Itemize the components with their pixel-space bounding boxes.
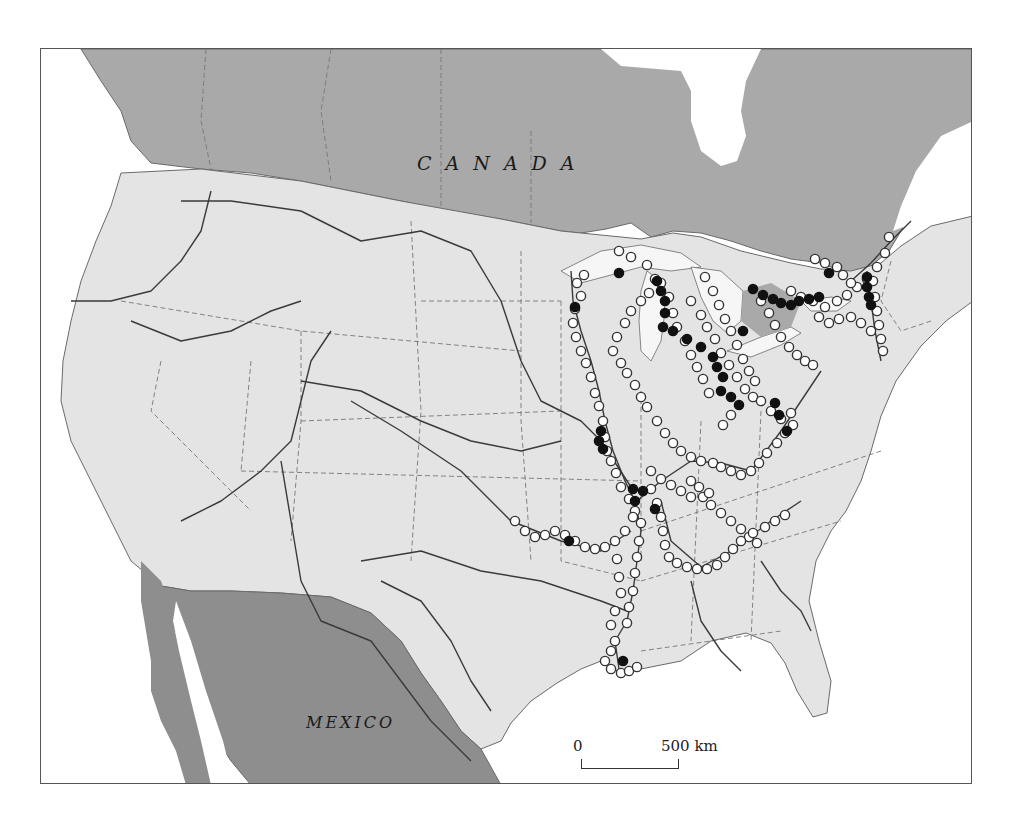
site-point [880, 248, 889, 257]
site-point [736, 470, 745, 479]
site-point [744, 366, 753, 375]
site-point [590, 544, 599, 553]
site-point [732, 372, 741, 381]
site-point [628, 586, 637, 595]
site-point [616, 588, 625, 597]
site-point [658, 526, 667, 535]
site-point [720, 314, 729, 323]
site-point [866, 326, 875, 335]
site-point [834, 314, 843, 323]
site-point [682, 334, 691, 343]
site-point [686, 452, 695, 461]
site-point [620, 318, 629, 327]
site-point [646, 466, 655, 475]
site-point [752, 538, 761, 547]
scale-start-label: 0 [573, 737, 583, 755]
site-point [884, 232, 893, 241]
site-point [770, 398, 779, 407]
scale-bar: 0 500 km [571, 737, 721, 781]
site-point [580, 542, 589, 551]
site-point [510, 516, 519, 525]
site-point [770, 516, 779, 525]
canada-label: CANADA [417, 152, 589, 174]
site-point [611, 468, 620, 477]
site-point [686, 350, 695, 359]
site-point [718, 372, 727, 381]
site-point [636, 296, 645, 305]
site-point [634, 536, 643, 545]
site-point [610, 536, 619, 545]
site-point [668, 438, 677, 447]
site-point [726, 516, 735, 525]
site-point [540, 530, 549, 539]
site-point [610, 636, 619, 645]
site-point [824, 268, 833, 277]
site-point [656, 474, 665, 483]
site-point [872, 262, 881, 271]
site-point [624, 602, 633, 611]
site-point [656, 512, 665, 521]
site-point [606, 620, 615, 629]
site-point [520, 526, 529, 535]
site-point [706, 500, 715, 509]
site-point [642, 260, 651, 269]
site-point [740, 384, 749, 393]
site-point [664, 552, 673, 561]
site-point [598, 444, 607, 453]
site-point [630, 380, 639, 389]
site-point [668, 326, 677, 335]
site-point [716, 462, 725, 471]
site-point [732, 340, 741, 349]
site-point [770, 320, 779, 329]
site-point [660, 308, 669, 317]
site-point [782, 426, 791, 435]
site-point [784, 342, 793, 351]
mexico-label: MEXICO [306, 713, 395, 732]
site-point [718, 420, 727, 429]
site-point [748, 528, 757, 537]
site-point [696, 310, 705, 319]
site-point [606, 646, 615, 655]
site-point [530, 532, 539, 541]
site-point [616, 358, 625, 367]
site-point [610, 606, 619, 615]
site-point [586, 372, 595, 381]
site-point [698, 374, 707, 383]
site-point [676, 446, 685, 455]
site-point [564, 536, 573, 545]
site-point [748, 284, 757, 293]
site-point [832, 262, 841, 271]
site-point [764, 308, 773, 317]
site-point [846, 278, 855, 287]
site-point [660, 428, 669, 437]
site-point [682, 562, 691, 571]
site-point [738, 326, 747, 335]
site-point [714, 300, 723, 309]
site-point [618, 656, 627, 665]
site-point [760, 522, 769, 531]
site-point [702, 322, 711, 331]
site-point [576, 346, 585, 355]
site-point [596, 426, 605, 435]
site-point [758, 290, 767, 299]
site-point [570, 302, 579, 311]
site-point [614, 268, 623, 277]
site-point [726, 410, 735, 419]
site-point [762, 448, 771, 457]
site-point [692, 564, 701, 573]
site-point [726, 466, 735, 475]
site-point [786, 286, 795, 295]
site-point [608, 346, 617, 355]
site-point [606, 664, 615, 673]
site-point [666, 480, 675, 489]
site-point [571, 332, 580, 341]
site-point [650, 504, 659, 513]
site-point [658, 322, 667, 331]
site-point [804, 294, 813, 303]
site-point [856, 318, 865, 327]
site-point [694, 482, 703, 491]
site-point [704, 488, 713, 497]
site-point [704, 388, 713, 397]
site-point [612, 332, 621, 341]
site-point [686, 296, 695, 305]
